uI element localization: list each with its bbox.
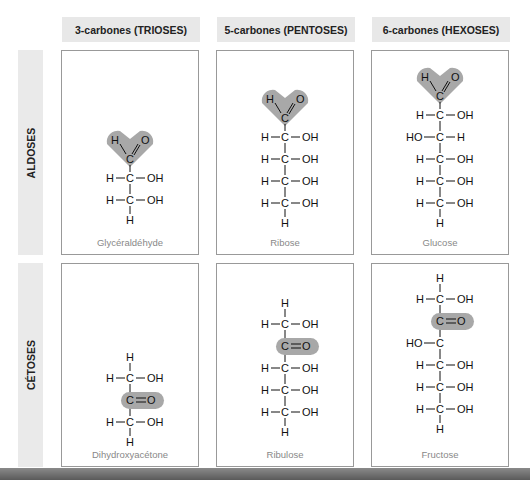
- svg-text:H: H: [281, 297, 289, 309]
- ribulose-structure: H H C OH C O H C OH H C OH H C OH H: [217, 264, 353, 466]
- svg-text:H: H: [106, 172, 114, 184]
- svg-text:OH: OH: [302, 318, 319, 330]
- svg-text:HO: HO: [406, 337, 423, 349]
- svg-text:H: H: [261, 362, 269, 374]
- panel-glucose: H O C H C OH HO C H H C OH H C OH H C OH…: [371, 50, 509, 255]
- svg-text:OH: OH: [457, 381, 474, 393]
- svg-text:C: C: [126, 172, 134, 184]
- svg-text:H: H: [416, 175, 424, 187]
- svg-text:H: H: [261, 153, 269, 165]
- svg-text:OH: OH: [147, 194, 164, 206]
- panel-ribose: H O C H C OH H C OH H C OH H C OH H Ribo…: [216, 50, 354, 255]
- svg-text:O: O: [457, 315, 466, 327]
- svg-text:H: H: [126, 436, 134, 448]
- svg-text:C: C: [281, 340, 289, 352]
- column-header-pentoses: 5-carbones (PENTOSES): [217, 17, 355, 42]
- svg-text:H: H: [281, 426, 289, 438]
- svg-text:H: H: [106, 416, 114, 428]
- svg-text:H: H: [106, 372, 114, 384]
- svg-text:H: H: [266, 93, 274, 105]
- row-label-aldoses: ALDOSES: [18, 50, 43, 255]
- panel-glyceraldehyde: H O C H C OH H C OH H Glycéraldéhyde: [61, 50, 199, 255]
- fructose-structure: H H C OH C O HO C H C OH H C OH H C OH H: [372, 264, 508, 466]
- svg-text:H: H: [457, 131, 465, 143]
- svg-text:C: C: [281, 112, 289, 124]
- svg-text:H: H: [436, 423, 444, 435]
- chain-row: H C OH: [261, 131, 319, 143]
- svg-text:H: H: [416, 109, 424, 121]
- svg-text:C: C: [126, 194, 134, 206]
- ribose-structure: H O C H C OH H C OH H C OH H C OH H: [217, 51, 353, 254]
- svg-text:C: C: [436, 381, 444, 393]
- svg-text:H: H: [106, 194, 114, 206]
- caption-ribose: Ribose: [217, 237, 353, 248]
- panel-dihydroxyacetone: H H C OH C O H C OH H Dihydroxyacétone: [61, 263, 199, 467]
- svg-text:C: C: [281, 153, 289, 165]
- svg-text:C: C: [436, 293, 444, 305]
- bottom-bar: [0, 468, 530, 480]
- row-label-cetoses-text: CÉTOSES: [25, 340, 37, 390]
- svg-text:H: H: [261, 384, 269, 396]
- svg-text:OH: OH: [147, 372, 164, 384]
- svg-text:OH: OH: [302, 362, 319, 374]
- svg-text:OH: OH: [457, 109, 474, 121]
- svg-text:H: H: [416, 403, 424, 415]
- svg-text:H: H: [126, 214, 134, 226]
- svg-text:C: C: [126, 394, 134, 406]
- row-label-cetoses: CÉTOSES: [18, 263, 43, 467]
- svg-text:C: C: [281, 362, 289, 374]
- svg-text:H: H: [281, 217, 289, 229]
- dihydroxyacetone-structure: H H C OH C O H C OH H: [62, 264, 198, 466]
- svg-text:OH: OH: [457, 175, 474, 187]
- svg-text:H: H: [261, 406, 269, 418]
- svg-text:H: H: [436, 217, 444, 229]
- svg-text:O: O: [302, 340, 311, 352]
- svg-text:H: H: [261, 318, 269, 330]
- svg-text:C: C: [281, 406, 289, 418]
- svg-text:C: C: [436, 315, 444, 327]
- row-label-aldoses-text: ALDOSES: [25, 127, 37, 178]
- caption-fructose: Fructose: [372, 449, 508, 460]
- svg-text:OH: OH: [147, 416, 164, 428]
- svg-text:H: H: [416, 153, 424, 165]
- panel-ribulose: H H C OH C O H C OH H C OH H C OH H Ribu…: [216, 263, 354, 467]
- svg-text:C: C: [436, 131, 444, 143]
- glucose-structure: H O C H C OH HO C H H C OH H C OH H C OH…: [372, 51, 508, 254]
- caption-ribulose: Ribulose: [217, 449, 353, 460]
- caption-glyceraldehyde: Glycéraldéhyde: [62, 237, 198, 248]
- svg-text:C: C: [436, 153, 444, 165]
- svg-text:O: O: [147, 394, 156, 406]
- svg-text:C: C: [281, 175, 289, 187]
- svg-text:OH: OH: [457, 197, 474, 209]
- svg-text:C: C: [281, 318, 289, 330]
- svg-text:OH: OH: [457, 359, 474, 371]
- svg-text:C: C: [281, 384, 289, 396]
- svg-text:OH: OH: [147, 172, 164, 184]
- svg-text:OH: OH: [457, 293, 474, 305]
- svg-text:HO: HO: [406, 131, 423, 143]
- svg-text:O: O: [296, 93, 305, 105]
- svg-text:C: C: [436, 197, 444, 209]
- svg-text:OH: OH: [302, 406, 319, 418]
- svg-text:C: C: [436, 337, 444, 349]
- svg-text:H: H: [111, 134, 119, 146]
- svg-text:O: O: [451, 71, 460, 83]
- svg-text:H: H: [421, 71, 429, 83]
- svg-text:H: H: [416, 293, 424, 305]
- svg-text:H: H: [416, 381, 424, 393]
- svg-text:C: C: [436, 359, 444, 371]
- svg-text:O: O: [141, 134, 150, 146]
- svg-text:OH: OH: [457, 153, 474, 165]
- svg-text:C: C: [126, 153, 134, 165]
- caption-glucose: Glucose: [372, 237, 508, 248]
- svg-text:H: H: [416, 359, 424, 371]
- svg-text:OH: OH: [302, 153, 319, 165]
- svg-text:C: C: [281, 131, 289, 143]
- svg-text:H: H: [436, 272, 444, 284]
- caption-dihydroxyacetone: Dihydroxyacétone: [62, 449, 198, 460]
- svg-text:C: C: [436, 109, 444, 121]
- svg-text:C: C: [436, 403, 444, 415]
- svg-text:C: C: [281, 197, 289, 209]
- svg-text:C: C: [126, 416, 134, 428]
- svg-text:OH: OH: [302, 131, 319, 143]
